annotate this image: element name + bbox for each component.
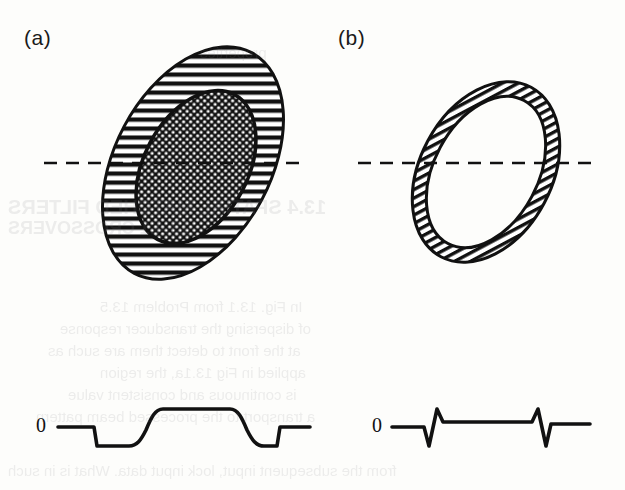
figure-canvas	[0, 0, 625, 490]
panel-label-b: (b)	[338, 26, 365, 50]
waveform-trace-a	[58, 409, 310, 446]
panel-b-shape-group	[380, 50, 595, 300]
waveform-zero-label-b: 0	[372, 414, 382, 437]
ring-hatch-fill-b	[380, 50, 595, 300]
panel-a-shape-group	[65, 16, 320, 310]
waveform-zero-label-a: 0	[36, 414, 46, 437]
waveform-trace-b	[392, 409, 590, 446]
figure-root: properties13.4 SPATIAL MATCHED FILTERS13…	[0, 0, 625, 490]
panel-label-a: (a)	[24, 26, 51, 50]
